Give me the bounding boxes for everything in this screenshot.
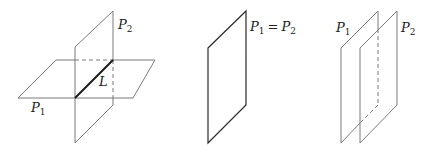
label-p2-fig1: P2: [118, 18, 132, 34]
diagram-canvas: [0, 0, 430, 153]
label-base: P: [250, 19, 259, 34]
label-sub: 1: [40, 107, 46, 117]
label-base: P: [401, 20, 410, 35]
label-sub: 2: [410, 27, 416, 37]
label-p1-equals-p2: P1=P2: [250, 20, 296, 36]
p1-right-edge: [133, 60, 155, 98]
label-base: P: [281, 19, 290, 34]
p2-top-edge: [75, 11, 113, 47]
label-sub: 1: [345, 27, 351, 37]
p2-bottom-edge: [75, 105, 113, 143]
label-p1-fig3: P1: [336, 21, 350, 37]
label-base: P: [118, 17, 127, 32]
label-p1-fig1: P1: [31, 101, 45, 117]
figure-coincident-planes: [208, 11, 246, 143]
p1-left-edge: [18, 60, 56, 98]
equals-sign: =: [264, 19, 281, 34]
p1-bottom-edge-visible: [341, 123, 360, 143]
plane-p1-horizontal: [18, 60, 155, 98]
label-base: P: [31, 100, 40, 115]
figure-intersecting-planes: [18, 11, 155, 143]
p1-bottom-edge-hidden: [360, 105, 378, 123]
label-base: P: [336, 20, 345, 35]
plane-p1-equals-p2: [208, 11, 246, 143]
label-sub: 2: [127, 24, 133, 34]
label-line-l: L: [99, 75, 108, 88]
label-p2-fig3: P2: [401, 21, 415, 37]
label-sub: 2: [290, 26, 296, 36]
label-base: L: [99, 74, 108, 89]
